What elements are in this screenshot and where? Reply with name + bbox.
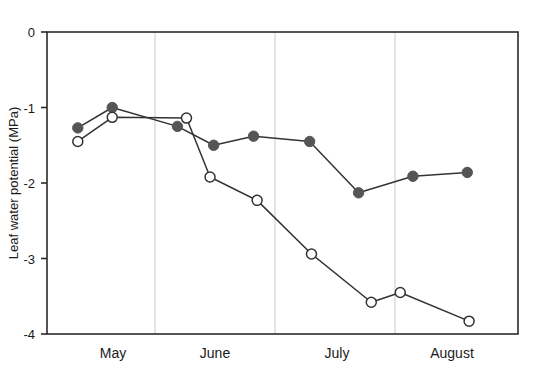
data-point-open-circle-7 (395, 287, 405, 297)
ytick-label-minus2: -2 (23, 176, 35, 191)
ytick-label-minus3: -3 (23, 252, 35, 267)
data-point-open-circle-3 (205, 172, 215, 182)
data-point-filled-circle-5 (304, 136, 314, 146)
data-point-filled-circle-0 (73, 123, 83, 133)
xtick-label-august: August (430, 345, 474, 361)
data-point-filled-circle-2 (172, 121, 182, 131)
xtick-label-june: June (200, 345, 231, 361)
ytick-label-0: 0 (28, 25, 35, 40)
data-point-filled-circle-7 (408, 171, 418, 181)
ytick-label-minus1: -1 (23, 101, 35, 116)
data-point-open-circle-0 (73, 136, 83, 146)
y-axis-title: Leaf water potential (MPa) (6, 107, 21, 259)
chart-canvas: 0 -1 -2 -3 -4 Leaf water potential (MPa)… (0, 0, 533, 375)
data-point-open-circle-5 (306, 249, 316, 259)
data-point-filled-circle-8 (462, 167, 472, 177)
data-point-filled-circle-4 (248, 131, 258, 141)
data-point-filled-circle-3 (208, 140, 218, 150)
xtick-label-may: May (100, 345, 126, 361)
data-point-filled-circle-6 (353, 188, 363, 198)
data-point-filled-circle-1 (107, 102, 117, 112)
xtick-label-july: July (325, 345, 350, 361)
data-point-open-circle-2 (181, 113, 191, 123)
data-point-open-circle-8 (464, 316, 474, 326)
data-point-open-circle-4 (252, 195, 262, 205)
y-axis-ticks (41, 32, 47, 334)
data-point-open-circle-1 (107, 112, 117, 122)
data-point-open-circle-6 (366, 297, 376, 307)
leaf-water-potential-chart: 0 -1 -2 -3 -4 Leaf water potential (MPa)… (0, 0, 533, 375)
plot-background (47, 32, 518, 334)
ytick-label-minus4: -4 (23, 327, 35, 342)
